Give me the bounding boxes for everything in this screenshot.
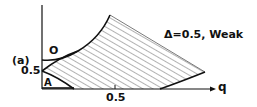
y-tick-label: 0.5	[21, 64, 41, 77]
hatched-region	[42, 15, 205, 89]
region-label-a: A	[44, 77, 52, 88]
x-tick-label: 0.5	[106, 91, 126, 104]
region-label-o: O	[49, 44, 58, 57]
diagram-title: Δ=0.5, Weak	[164, 28, 243, 41]
x-axis-label: q	[218, 80, 227, 94]
x-axis-arrow-icon	[210, 87, 216, 92]
